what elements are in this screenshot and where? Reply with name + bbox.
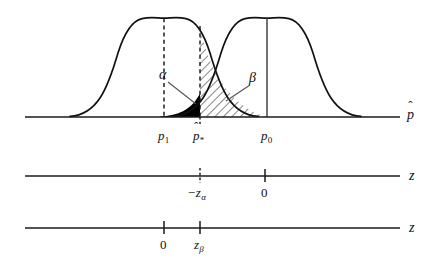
alpha-label: α — [159, 68, 166, 82]
tick-label-p1-base: p — [158, 128, 165, 143]
tick-label-z-beta: zβ — [194, 238, 204, 254]
tick-label-p1: p1 — [158, 129, 169, 145]
alpha-region — [160, 94, 200, 118]
tick-label-p1-sub: 1 — [165, 135, 170, 145]
beta-label: β — [249, 71, 256, 85]
error-diagram-svg — [0, 0, 440, 269]
tick-label-zero-low: 0 — [160, 238, 167, 251]
z-axis-2-label: z — [409, 221, 414, 235]
hat-accent-icon: ˆ — [408, 100, 412, 113]
tick-label-neg-z-alpha-base: −z — [187, 185, 201, 200]
tick-label-neg-z-alpha-sub: α — [201, 192, 206, 202]
tick-label-z-beta-sub: β — [199, 244, 204, 254]
tick-label-p0-base: p — [261, 128, 268, 143]
tick-label-p0-sub: 0 — [268, 135, 273, 145]
hat-accent-icon: ˆ — [194, 122, 198, 134]
tick-label-pstar-sub: * — [200, 135, 205, 145]
figure-canvas: α β ˆ p p1 ˆ p * p0 z −zα 0 z 0 zβ — [0, 0, 440, 269]
beta-region — [200, 27, 267, 118]
phat-axis-label: ˆ p — [407, 108, 414, 122]
tick-label-p0: p0 — [261, 129, 272, 145]
z-axis-1-label: z — [409, 169, 414, 183]
tick-label-pstar: ˆ p * — [193, 129, 204, 145]
alpha-leader-line — [168, 82, 196, 104]
tick-label-zero-mid: 0 — [261, 186, 268, 199]
tick-label-neg-z-alpha: −zα — [187, 186, 206, 202]
